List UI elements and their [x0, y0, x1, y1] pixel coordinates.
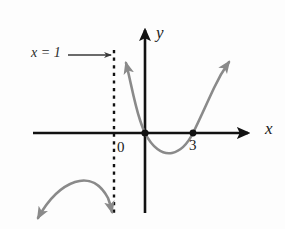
x-tick-label-0: 0 [117, 140, 125, 155]
asymptote-annotation-label: x = 1 [31, 46, 61, 60]
y-axis-label: y [156, 24, 164, 41]
graph-figure: y x 0 3 x = 1 [0, 0, 285, 229]
x-axis-label: x [265, 120, 273, 137]
curve-right-branch [126, 62, 229, 153]
plot-canvas [0, 0, 285, 229]
curve-left-branch [38, 180, 112, 218]
x-tick-label-3: 3 [189, 138, 197, 153]
point-marker-origin [141, 129, 148, 136]
point-marker-three [190, 130, 197, 137]
